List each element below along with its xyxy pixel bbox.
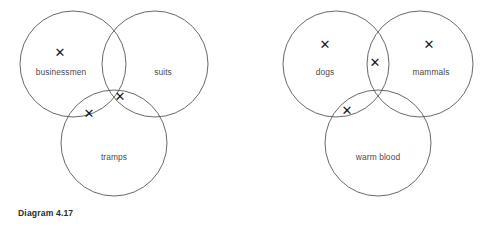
set-label-warm-blood: warm blood [356,153,400,161]
venn-circle-mammals [367,11,473,117]
set-label-dogs: dogs [316,68,335,76]
venn-circle-tramps [61,90,167,196]
caption-diagram-4-17: Diagram 4.17 [18,209,73,218]
set-label-businessmen: businessmen [36,68,86,76]
x-mark-mammals-only: ✕ [424,38,435,51]
set-label-tramps: tramps [101,153,127,161]
x-mark-businessmen-suits-tramps: ✕ [115,90,126,103]
venn-diagram-pair: businessmen suits tramps ✕ ✕ ✕ Diagram 4… [0,0,500,233]
x-mark-dogs-and-mammals: ✕ [370,56,381,69]
x-mark-dogs-only: ✕ [320,38,331,51]
set-label-suits: suits [154,68,172,76]
set-label-mammals: mammals [413,68,450,76]
venn-stage-right: dogs mammals warm blood ✕ ✕ ✕ ✕ [250,0,500,205]
venn-circles-right [250,0,500,205]
x-mark-dogs-and-warm-blood: ✕ [342,104,353,117]
venn-circle-businessmen [20,11,126,117]
figure-diagram-4-17: businessmen suits tramps ✕ ✕ ✕ Diagram 4… [0,0,250,233]
x-mark-businessmen-only: ✕ [55,46,66,59]
x-mark-businessmen-and-tramps: ✕ [84,107,95,120]
venn-stage-left: businessmen suits tramps ✕ ✕ ✕ [0,0,250,205]
figure-diagram-4-18: dogs mammals warm blood ✕ ✕ ✕ ✕ Diagram … [250,0,500,233]
